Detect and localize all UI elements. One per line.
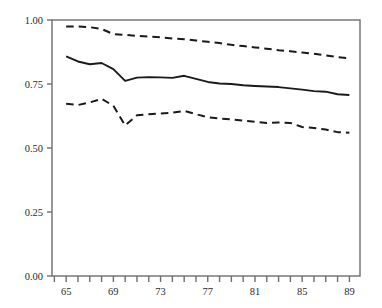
axis-box xyxy=(52,20,360,276)
x-tick-label: 85 xyxy=(297,286,308,297)
y-tick-label: 0.50 xyxy=(25,143,43,154)
y-tick-label: 1.00 xyxy=(25,15,43,26)
x-tick-label: 81 xyxy=(250,286,261,297)
x-tick-label: 89 xyxy=(344,286,355,297)
y-tick-label: 0.00 xyxy=(25,271,43,282)
y-axis-ticks xyxy=(47,20,52,276)
point-estimate xyxy=(66,56,349,95)
upper-confidence-band xyxy=(66,26,349,58)
y-axis-tick-labels: 0.000.250.500.751.00 xyxy=(25,15,43,282)
x-axis-minor-ticks xyxy=(54,276,337,282)
x-tick-label: 77 xyxy=(203,286,214,297)
x-tick-label: 65 xyxy=(61,286,72,297)
y-tick-label: 0.75 xyxy=(25,79,43,90)
y-tick-label: 0.25 xyxy=(25,207,43,218)
line-chart: 0.000.250.500.751.00 65697377818589 xyxy=(0,0,382,308)
x-axis-ticks xyxy=(66,276,349,282)
x-tick-label: 73 xyxy=(155,286,166,297)
x-tick-label: 69 xyxy=(108,286,119,297)
chart-container: 0.000.250.500.751.00 65697377818589 xyxy=(0,0,382,308)
series-layer xyxy=(66,26,349,132)
x-axis-tick-labels: 65697377818589 xyxy=(61,286,355,297)
plot-frame xyxy=(52,20,360,276)
lower-confidence-band xyxy=(66,99,349,133)
